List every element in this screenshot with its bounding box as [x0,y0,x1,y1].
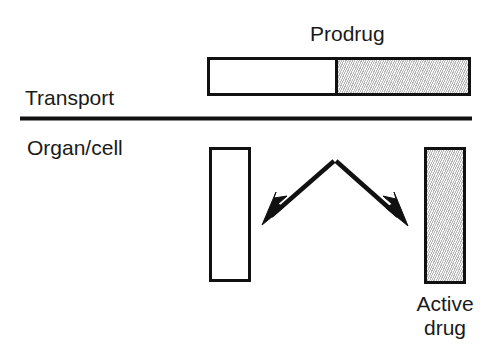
prodrug-bar-white-segment [207,57,338,96]
prodrug-bar-shaded-segment [335,57,471,96]
active-drug-label-line1: Active [410,292,480,316]
prodrug-diagram: Prodrug Transport Organ/cell Active drug [0,0,482,358]
cleavage-arrow-right [336,161,408,226]
organ-box-shaded [424,147,466,284]
organ-box-white [209,147,251,282]
prodrug-label: Prodrug [310,22,385,46]
organ-cell-label: Organ/cell [27,136,123,160]
active-drug-label-line2: drug [410,316,480,340]
active-drug-label: Active drug [410,292,480,340]
cleavage-arrow-left [262,161,334,225]
transport-label: Transport [25,86,114,110]
